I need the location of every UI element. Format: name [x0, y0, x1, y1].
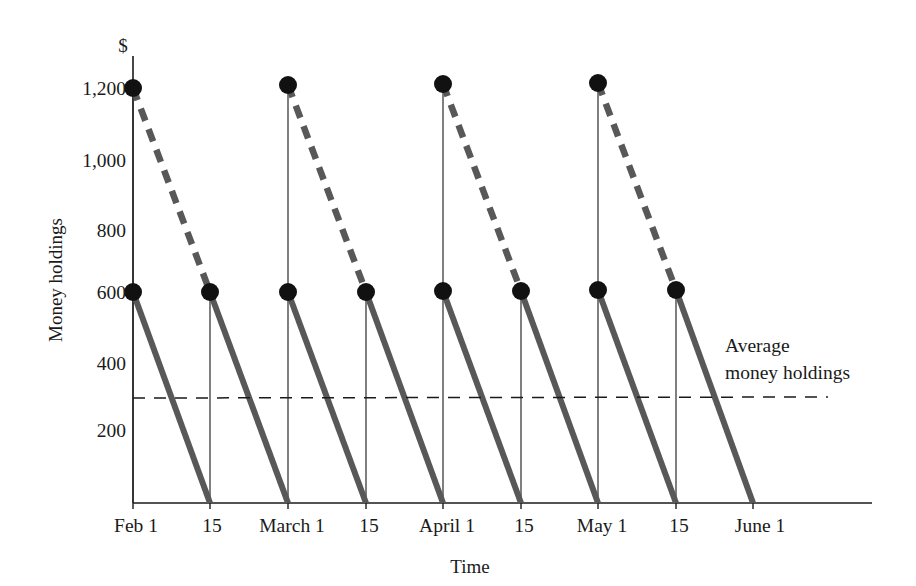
currency-unit-label: $ — [118, 35, 128, 56]
money-holdings-chart: $ 1,200 1,000 800 600 400 200 Feb 1 15 M… — [0, 0, 916, 586]
y-tick-labels: 1,200 1,000 800 600 400 200 — [82, 78, 126, 441]
x-tick-feb-15: 15 — [202, 515, 222, 536]
x-tick-april-1: April 1 — [419, 515, 475, 536]
x-tick-marks — [133, 503, 753, 509]
x-tick-june-1: June 1 — [735, 515, 785, 536]
annotation-line-2: money holdings — [725, 362, 850, 383]
average-money-holdings-annotation: Average money holdings — [725, 335, 850, 383]
x-tick-april-15: 15 — [514, 515, 534, 536]
x-tick-may-15: 15 — [669, 515, 689, 536]
average-money-holdings-line — [133, 397, 828, 398]
peak-markers-1200 — [124, 74, 607, 97]
x-tick-march-15: 15 — [359, 515, 379, 536]
x-tick-labels: Feb 1 15 March 1 15 April 1 15 May 1 15 … — [114, 515, 785, 536]
chart-canvas: $ 1,200 1,000 800 600 400 200 Feb 1 15 M… — [0, 0, 916, 586]
annotation-line-1: Average — [725, 335, 790, 356]
x-tick-may-1: May 1 — [577, 515, 627, 536]
series-dashed-first-half — [133, 83, 676, 292]
x-tick-feb-1: Feb 1 — [114, 515, 158, 536]
y-tick-1000: 1,000 — [82, 150, 126, 171]
y-tick-800: 800 — [97, 220, 126, 241]
y-axis-title: Money holdings — [45, 218, 66, 342]
y-tick-400: 400 — [97, 353, 126, 374]
level-markers-600 — [124, 281, 685, 301]
y-tick-1200: 1,200 — [82, 78, 126, 99]
x-axis-title: Time — [450, 556, 489, 577]
y-tick-200: 200 — [97, 420, 126, 441]
y-tick-600: 600 — [97, 282, 126, 303]
x-tick-march-1: March 1 — [259, 515, 325, 536]
